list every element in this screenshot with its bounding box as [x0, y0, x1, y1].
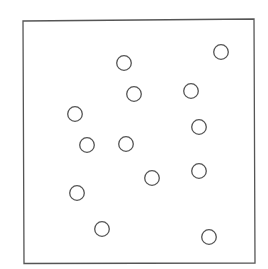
background: [0, 0, 268, 269]
diagram-canvas: [0, 0, 268, 269]
